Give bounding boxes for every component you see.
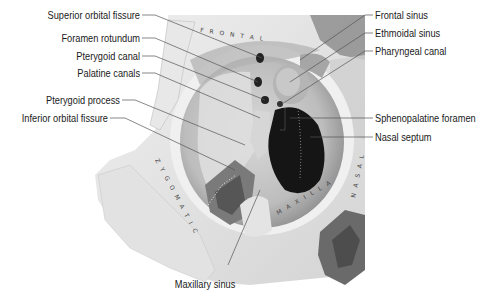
label-pterygoid-canal: Pterygoid canal xyxy=(17,50,140,62)
label-pharyngeal-canal: Pharyngeal canal xyxy=(375,45,446,57)
label-superior-orbital-fissure: Superior orbital fissure xyxy=(17,9,140,21)
label-sphenopalatine-foramen: Sphenopalatine foramen xyxy=(375,112,476,124)
label-ethmoidal-sinus: Ethmoidal sinus xyxy=(375,27,440,39)
label-maxillary-sinus: Maxillary sinus xyxy=(139,278,271,290)
label-inferior-orbital-fissure: Inferior orbital fissure xyxy=(13,112,108,124)
label-foramen-rotundum: Foramen rotundum xyxy=(17,32,140,44)
label-pterygoid-process: Pterygoid process xyxy=(14,94,120,106)
label-palatine-canals: Palatine canals xyxy=(17,67,140,79)
label-nasal-septum: Nasal septum xyxy=(375,131,431,143)
label-frontal-sinus: Frontal sinus xyxy=(375,9,428,21)
orbit-anatomy-figure: F R O N T A L Z Y G O M A T I C M A X I … xyxy=(0,0,503,299)
superior-orbital-fissure-hole xyxy=(256,53,264,63)
